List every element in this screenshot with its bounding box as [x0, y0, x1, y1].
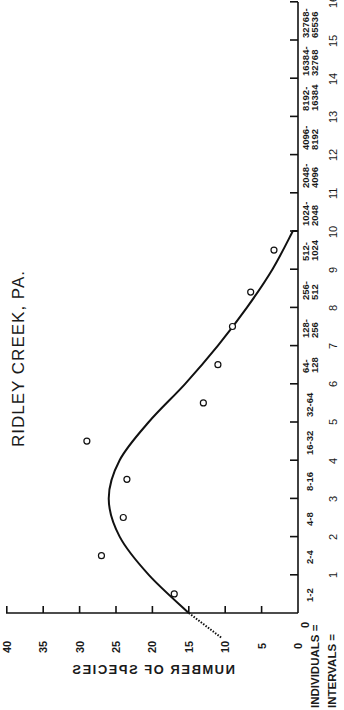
interval-number-label: 13 [327, 111, 339, 123]
data-point [84, 438, 90, 444]
chart-title: RIDLEY CREEK, PA. [9, 270, 29, 447]
species-tick-label: 35 [37, 640, 49, 652]
interval-number-label: 7 [327, 343, 339, 349]
individuals-class-label: 128-256 [301, 319, 319, 338]
interval-number-label: 3 [327, 496, 339, 502]
interval-number-label: 11 [327, 188, 339, 199]
individuals-class-label: 32-64 [305, 393, 314, 417]
species-tick-label: 40 [1, 640, 13, 652]
individuals-class-label: 4-8 [305, 512, 314, 526]
individuals-class-label: 1024-2048 [301, 202, 319, 226]
interval-number-label: 12 [327, 149, 339, 161]
interval-number-label: 16 [327, 0, 339, 8]
interval-axis [290, 2, 298, 613]
interval-number-label: 8 [327, 305, 339, 311]
interval-number-label: 2 [327, 534, 339, 540]
interval-number-label: 9 [327, 266, 339, 272]
individuals-class-label: 2-4 [305, 550, 314, 564]
rotated-chart [0, 0, 344, 710]
interval-number-label: 6 [327, 381, 339, 387]
species-axis [6, 606, 298, 613]
data-point [98, 553, 104, 559]
interval-number-label: 10 [327, 225, 339, 237]
individuals-prefix: INDIVIDUALS = [309, 625, 321, 708]
interval-number-label: 1 [327, 572, 339, 578]
species-tick-label: 0 [292, 643, 304, 649]
data-point [124, 476, 130, 482]
interval-number-label: 4 [327, 457, 339, 463]
species-tick-label: 5 [256, 643, 268, 649]
intervals-prefix: INTERVALS = [326, 634, 338, 708]
interval-number-label: 5 [327, 419, 339, 425]
interval-number-label: 15 [327, 34, 339, 46]
data-point [229, 324, 235, 330]
species-tick-label: 25 [110, 640, 122, 652]
fitted-curve [109, 231, 298, 613]
data-point [171, 591, 177, 597]
data-point [200, 400, 206, 406]
species-tick-label: 30 [74, 640, 86, 652]
data-points [84, 247, 277, 597]
data-point [120, 515, 126, 521]
data-point [215, 362, 221, 368]
data-point [271, 247, 277, 253]
individuals-class-label: 16-32 [305, 431, 314, 455]
individuals-class-label: 64-128 [301, 357, 319, 373]
individuals-class-label: 512-1024 [301, 240, 319, 261]
species-tick-label: 15 [183, 640, 195, 652]
individuals-class-label: 1-2 [305, 589, 314, 603]
data-point [248, 289, 254, 295]
individuals-class-label: 8192-16384 [301, 85, 319, 111]
individuals-class-label: 8-16 [305, 471, 314, 490]
species-tick-label: 10 [219, 640, 231, 652]
individuals-class-label: 2048-4096 [301, 163, 319, 187]
individuals-class-label: 256-512 [301, 280, 319, 299]
species-tick-label: 20 [146, 640, 158, 652]
individuals-class-label: 32768-65536 [301, 8, 319, 38]
y-axis-label: NUMBER OF SPECIES [71, 662, 235, 677]
extrapolated-dotted-line [189, 613, 222, 638]
individuals-class-label: 16384-32768 [301, 46, 319, 76]
interval-number-label: 14 [327, 73, 339, 85]
individuals-class-label: 4096-8192 [301, 125, 319, 149]
